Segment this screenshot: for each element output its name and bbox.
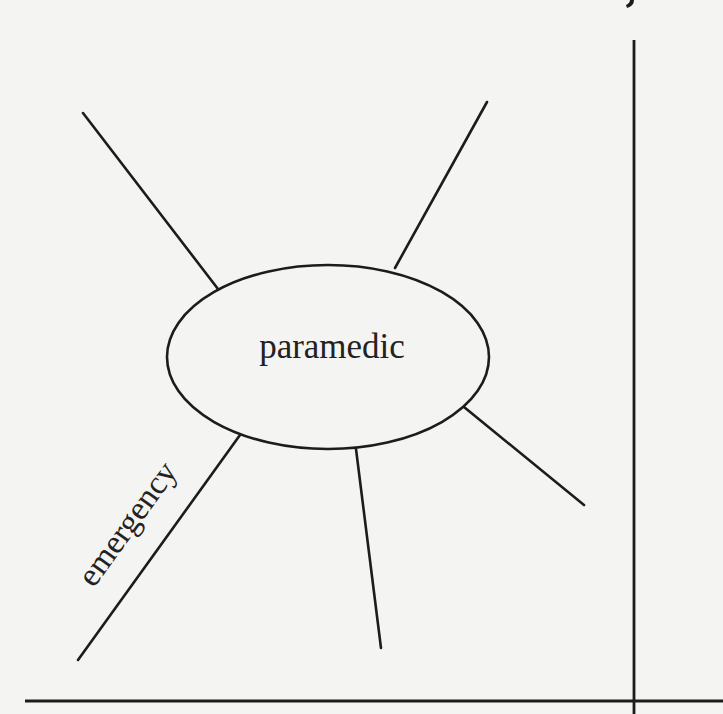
- spoke-label-emergency: emergency: [70, 454, 184, 592]
- spoke-lower-right: [464, 407, 584, 505]
- spoke-top-right: [395, 102, 487, 268]
- spoke-bottom: [356, 449, 381, 648]
- cropped-title-fragment: [626, 0, 634, 8]
- word-web-diagram: paramedic emergency: [0, 0, 723, 714]
- spoke-top-left: [83, 113, 218, 289]
- center-label: paramedic: [259, 327, 405, 366]
